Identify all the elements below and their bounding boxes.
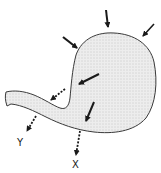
arrow-top-right: [143, 24, 154, 36]
label-x: X: [72, 159, 79, 170]
arrow-top: [106, 10, 108, 27]
arrow-to-x: [76, 131, 80, 155]
label-y: Y: [16, 137, 24, 148]
arrow-to-y: [27, 116, 36, 131]
stomach-diagram: Y X: [0, 0, 161, 173]
arrow-outlet: [51, 89, 65, 100]
arrow-top-left: [63, 37, 77, 48]
